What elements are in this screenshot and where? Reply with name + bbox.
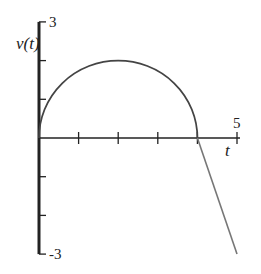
chart-marks [39, 61, 237, 255]
y-axis-label: v(t) [16, 34, 40, 53]
x-axis-label: t [225, 141, 231, 160]
x-tick-label: 5 [233, 115, 241, 131]
velocity-chart: v(t) t 3-35 [0, 0, 261, 274]
semicircle-curve [39, 61, 197, 138]
y-tick-label: -3 [49, 246, 62, 262]
y-tick-label: 3 [49, 14, 57, 30]
axes [39, 22, 240, 254]
linear-segment [197, 138, 237, 254]
